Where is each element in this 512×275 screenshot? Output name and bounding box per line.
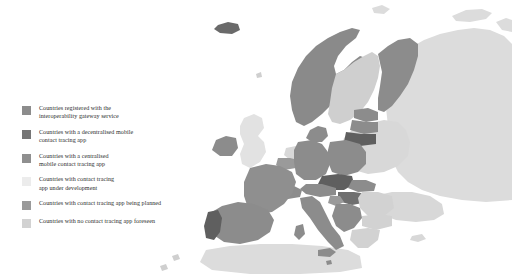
legend-swatch-app-under-development bbox=[22, 177, 31, 186]
legend-label-no-app-foreseen: Countries with no contact tracing app fo… bbox=[39, 217, 155, 225]
legend-label-decentralised-app: Countries with a decentralised mobile co… bbox=[39, 128, 133, 145]
legend-item-decentralised-app[interactable]: Countries with a decentralised mobile co… bbox=[22, 128, 197, 145]
map-legend: Countries registered with the interopera… bbox=[22, 104, 197, 235]
legend-item-app-under-development[interactable]: Countries with contact tracing app under… bbox=[22, 175, 197, 192]
map-figure: Countries registered with the interopera… bbox=[0, 0, 512, 275]
legend-label-app-under-development: Countries with contact tracing app under… bbox=[39, 175, 114, 192]
legend-item-centralised-app[interactable]: Countries with a centralised mobile cont… bbox=[22, 152, 197, 169]
legend-item-interoperability-gateway[interactable]: Countries registered with the interopera… bbox=[22, 104, 197, 121]
legend-item-app-being-planned[interactable]: Countries with contact tracing app being… bbox=[22, 199, 197, 210]
legend-swatch-interoperability-gateway bbox=[22, 106, 31, 115]
legend-label-centralised-app: Countries with a centralised mobile cont… bbox=[39, 152, 109, 169]
legend-label-app-being-planned: Countries with contact tracing app being… bbox=[39, 199, 161, 207]
legend-item-no-app-foreseen[interactable]: Countries with no contact tracing app fo… bbox=[22, 217, 197, 228]
legend-swatch-no-app-foreseen bbox=[22, 219, 31, 228]
legend-swatch-centralised-app bbox=[22, 154, 31, 163]
legend-label-interoperability-gateway: Countries registered with the interopera… bbox=[39, 104, 119, 121]
legend-swatch-app-being-planned bbox=[22, 201, 31, 210]
legend-swatch-decentralised-app bbox=[22, 130, 31, 139]
